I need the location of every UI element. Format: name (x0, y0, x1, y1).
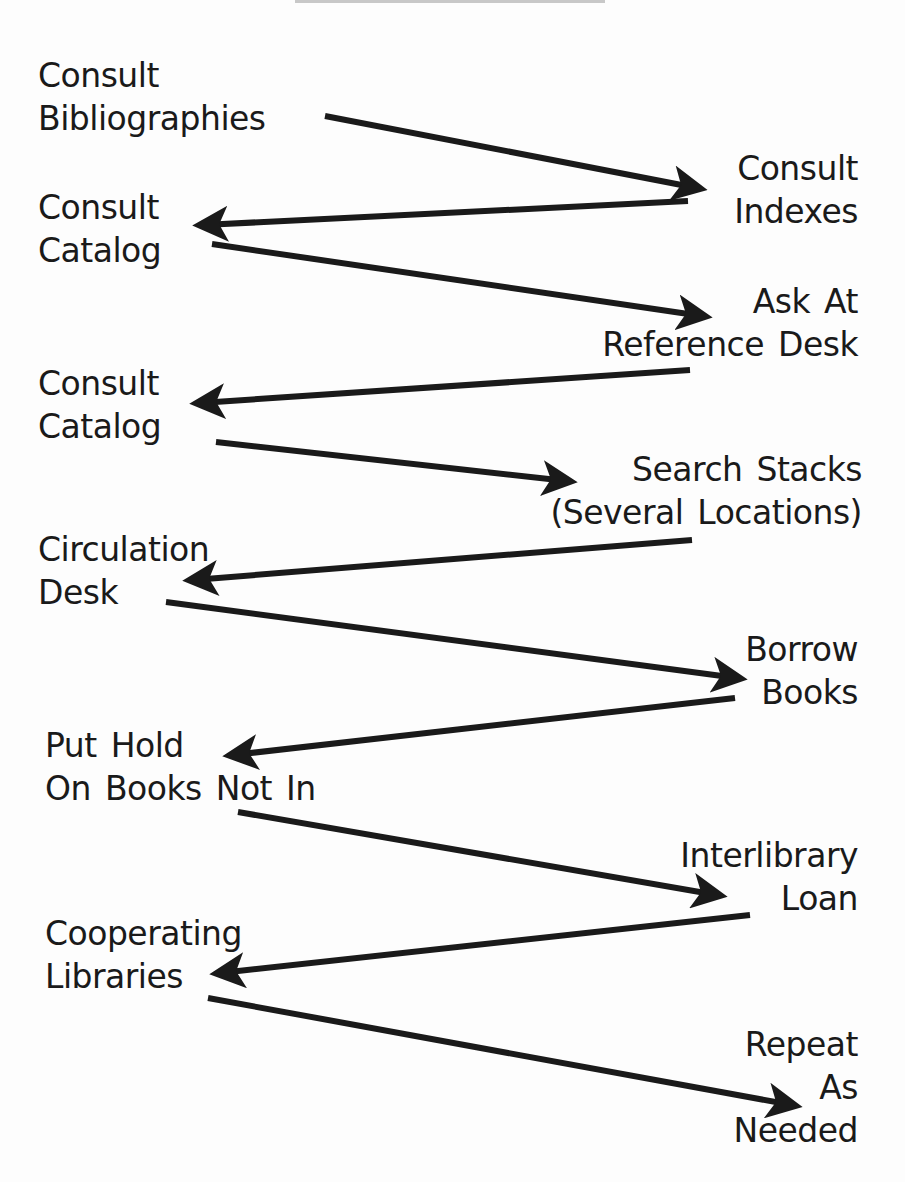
step-label-line: Circulation (38, 528, 209, 571)
step-label-line: Interlibrary (680, 834, 858, 877)
step-label-s12: RepeatAsNeeded (734, 1023, 859, 1152)
step-label-line: Ask At (602, 280, 858, 323)
step-label-line: Libraries (45, 955, 242, 998)
arrow-s6-to-s7 (193, 540, 692, 580)
step-label-line: On Books Not In (45, 767, 316, 810)
step-label-s5: ConsultCatalog (38, 362, 161, 448)
step-label-line: Indexes (734, 190, 858, 233)
arrow-s4-to-s5 (200, 370, 690, 403)
arrow-s10-to-s11 (220, 915, 750, 973)
step-label-s6: Search Stacks(Several Locations) (550, 448, 862, 534)
step-label-line: Borrow (745, 628, 858, 671)
step-label-line: As (734, 1066, 859, 1109)
step-label-line: Catalog (38, 405, 161, 448)
step-label-line: Repeat (734, 1023, 859, 1066)
step-label-line: Consult (38, 186, 161, 229)
step-label-line: Loan (680, 877, 858, 920)
step-label-line: Needed (734, 1109, 859, 1152)
step-label-line: (Several Locations) (550, 491, 862, 534)
arrow-s2-to-s3 (203, 201, 688, 225)
step-label-line: Reference Desk (602, 323, 858, 366)
arrow-s1-to-s2 (325, 116, 697, 188)
step-label-s4: Ask AtReference Desk (602, 280, 858, 366)
step-label-s8: BorrowBooks (745, 628, 858, 714)
step-label-line: Consult (38, 362, 161, 405)
step-label-line: Bibliographies (38, 97, 266, 140)
step-label-s7: CirculationDesk (38, 528, 209, 614)
step-label-s1: ConsultBibliographies (38, 54, 266, 140)
step-label-line: Consult (734, 147, 858, 190)
step-label-s2: ConsultIndexes (734, 147, 858, 233)
step-label-line: Desk (38, 571, 209, 614)
step-label-s11: CooperatingLibraries (45, 912, 242, 998)
step-label-s3: ConsultCatalog (38, 186, 161, 272)
arrow-s11-to-s12 (208, 998, 792, 1105)
step-label-line: Catalog (38, 229, 161, 272)
step-label-s10: InterlibraryLoan (680, 834, 858, 920)
arrow-s7-to-s8 (166, 602, 737, 678)
step-label-line: Search Stacks (550, 448, 862, 491)
arrow-s9-to-s10 (238, 812, 717, 895)
arrow-group (166, 116, 792, 1105)
step-label-line: Consult (38, 54, 266, 97)
step-label-line: Cooperating (45, 912, 242, 955)
arrow-s5-to-s6 (216, 442, 567, 481)
step-label-line: Put Hold (45, 724, 316, 767)
step-label-s9: Put HoldOn Books Not In (45, 724, 316, 810)
step-label-line: Books (745, 671, 858, 714)
